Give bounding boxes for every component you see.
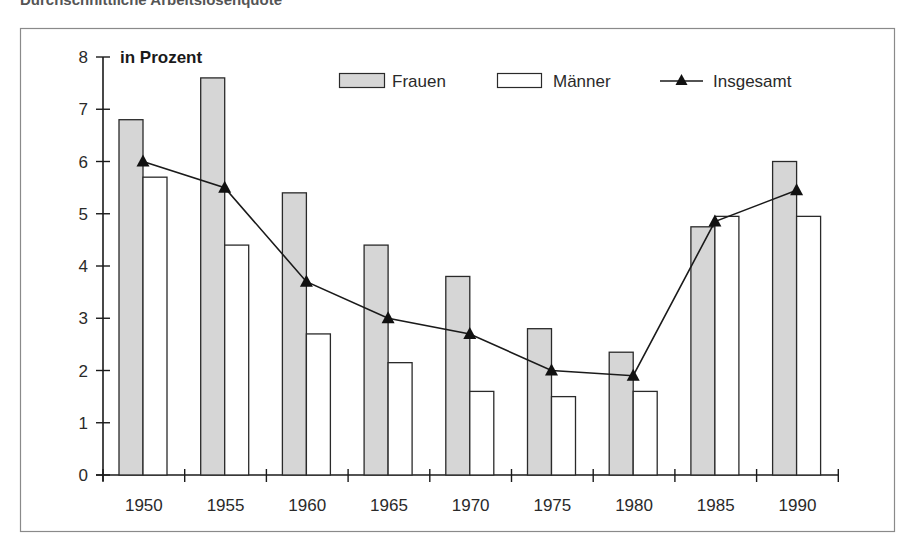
bar-frauen-1980	[609, 352, 633, 475]
x-tick-label: 1970	[452, 496, 490, 515]
bar-frauen-1970	[446, 276, 470, 475]
y-tick-label: 0	[79, 466, 88, 485]
bar-maenner-1965	[388, 363, 412, 475]
y-tick-label: 1	[79, 414, 88, 433]
bar-frauen-1960	[282, 193, 306, 475]
bar-frauen-1950	[119, 120, 143, 475]
x-tick-label: 1965	[370, 496, 408, 515]
bar-frauen-1990	[773, 162, 797, 476]
x-tick-label: 1980	[615, 496, 653, 515]
x-tick-label: 1975	[533, 496, 571, 515]
legend-label-insgesamt: Insgesamt	[713, 72, 792, 91]
y-tick-label: 8	[79, 48, 88, 67]
bar-maenner-1970	[470, 391, 494, 475]
y-tick-label: 3	[79, 309, 88, 328]
legend-label-maenner: Männer	[553, 72, 611, 91]
x-tick-label: 1990	[779, 496, 817, 515]
bar-maenner-1980	[633, 391, 657, 475]
bar-maenner-1955	[225, 245, 249, 475]
y-tick-label: 2	[79, 362, 88, 381]
bar-maenner-1985	[715, 216, 739, 475]
chart: 012345678 195019551960196519701975198019…	[0, 0, 916, 553]
legend-swatch-maenner	[498, 74, 542, 88]
bar-frauen-1985	[691, 227, 715, 475]
bar-frauen-1965	[364, 245, 388, 475]
bar-maenner-1960	[306, 334, 330, 475]
y-tick-label: 7	[79, 100, 88, 119]
x-tick-label: 1955	[207, 496, 245, 515]
x-tick-label: 1985	[697, 496, 735, 515]
bar-maenner-1990	[797, 216, 821, 475]
unit-label: in Prozent	[120, 48, 203, 67]
x-tick-label: 1960	[288, 496, 326, 515]
legend-swatch-frauen	[340, 74, 385, 88]
y-tick-label: 4	[79, 257, 88, 276]
bar-frauen-1955	[201, 78, 225, 475]
bar-frauen-1975	[528, 329, 552, 475]
x-tick-label: 1950	[125, 496, 163, 515]
bar-maenner-1950	[143, 177, 167, 475]
legend-label-frauen: Frauen	[392, 72, 446, 91]
legend: Frauen Männer Insgesamt	[340, 72, 792, 91]
bar-maenner-1975	[552, 397, 576, 475]
y-tick-label: 5	[79, 205, 88, 224]
y-tick-label: 6	[79, 153, 88, 172]
